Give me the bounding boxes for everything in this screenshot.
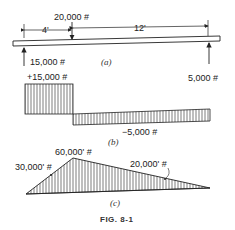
- max-moment-label: 60,000' #: [55, 147, 92, 157]
- negative-shear-label: −5,000 #: [122, 127, 157, 137]
- figure-caption: FIG. 8-1: [100, 215, 133, 224]
- point-load-label: 20,000 #: [54, 12, 89, 22]
- moment-point-20000: [164, 178, 166, 180]
- moment-leader-line: [166, 168, 169, 178]
- positive-shear-label: +15,000 #: [27, 72, 67, 82]
- right-reaction-label: 5,000 #: [188, 73, 218, 83]
- negative-shear-block: [73, 109, 210, 125]
- moment-point-30000: [50, 174, 52, 176]
- positive-shear-block: [25, 84, 73, 114]
- dimension-label-12ft: 12': [134, 23, 146, 33]
- panel-b-caption: (b): [108, 137, 119, 147]
- right-mid-moment-label: 20,000' #: [130, 159, 167, 169]
- panel-c-moment: 60,000' # 30,000' # 20,000' # (c): [15, 147, 210, 208]
- left-mid-moment-label: 30,000' #: [15, 162, 52, 172]
- panel-c-caption: (c): [110, 198, 120, 208]
- panel-b-shear: +15,000 # −5,000 # (b): [25, 72, 210, 147]
- left-reaction-label: 15,000 #: [30, 57, 65, 67]
- beam-diagram-figure: 4' 12' 20,000 # 15,000 # 5,000 # (a) +15…: [0, 0, 235, 230]
- dimension-label-4ft: 4': [42, 25, 49, 35]
- beam: [13, 36, 220, 46]
- panel-a-caption: (a): [101, 57, 112, 67]
